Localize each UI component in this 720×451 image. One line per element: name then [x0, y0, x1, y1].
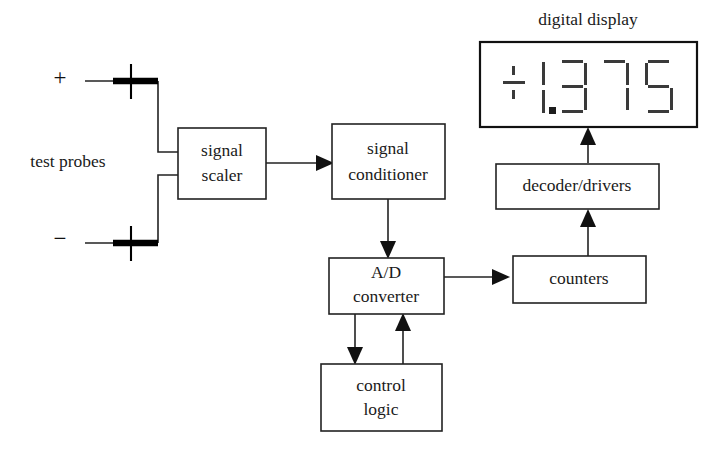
wire-conditioner-to-ad [380, 199, 396, 259]
digital-display-panel[interactable] [480, 42, 697, 127]
block-decoder-drivers[interactable]: decoder/drivers [496, 164, 659, 209]
block-control-logic-line2: logic [364, 399, 399, 419]
block-counters[interactable]: counters [513, 256, 646, 303]
wire-control-logic-to-ad [395, 313, 411, 365]
block-signal-scaler[interactable]: signal scaler [178, 128, 266, 199]
display-decimal-point [549, 107, 556, 114]
probe-minus-symbol [113, 226, 158, 261]
diagram-canvas: signal scaler signal conditioner A/D con… [0, 0, 720, 451]
probe-plus-label: + [54, 65, 67, 90]
probe-minus-label: − [54, 226, 67, 251]
block-ad-converter-line1: A/D [371, 262, 401, 282]
probe-plus-symbol [113, 64, 158, 99]
wire-decoder-to-display [580, 127, 596, 163]
block-signal-conditioner[interactable]: signal conditioner [332, 124, 445, 199]
digital-display-caption: digital display [538, 9, 638, 29]
block-signal-scaler-line2: scaler [202, 165, 243, 185]
wire-scaler-to-conditioner [266, 155, 334, 171]
block-diagram-svg: signal scaler signal conditioner A/D con… [0, 0, 720, 451]
test-probes-label: test probes [30, 151, 106, 171]
wire-counters-to-decoder [580, 209, 596, 257]
block-control-logic[interactable]: control logic [321, 364, 442, 431]
block-ad-converter[interactable]: A/D converter [329, 258, 444, 314]
block-signal-conditioner-line1: signal [367, 138, 409, 158]
block-control-logic-line1: control [356, 375, 406, 395]
wire-ad-to-control-logic [347, 313, 363, 365]
block-decoder-drivers-label: decoder/drivers [523, 175, 632, 195]
block-ad-converter-line2: converter [353, 286, 419, 306]
wire-ad-to-counters [444, 269, 510, 285]
block-counters-label: counters [549, 268, 608, 288]
block-signal-scaler-line1: signal [201, 140, 243, 160]
block-signal-conditioner-line2: conditioner [348, 164, 428, 184]
